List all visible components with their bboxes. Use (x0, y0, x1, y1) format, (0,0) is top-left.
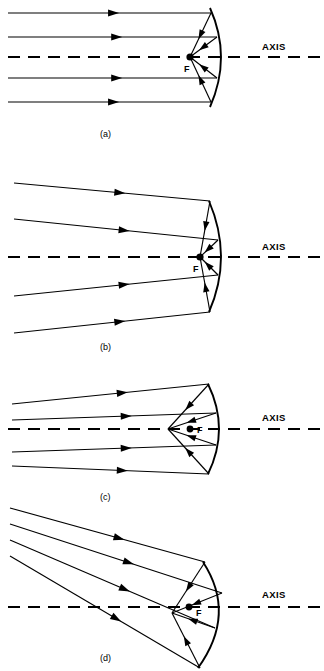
incoming-ray-arrow-1 (108, 9, 119, 16)
reflected-ray-arrow-3 (199, 64, 208, 72)
reflected-ray-arrow-2 (192, 599, 202, 605)
panel-d: FAXIS(d) (8, 508, 324, 668)
incoming-ray-arrow-4 (110, 613, 121, 622)
incoming-ray-4 (12, 466, 209, 474)
incoming-ray-2 (12, 413, 216, 420)
focal-point-label: F (184, 64, 190, 74)
incoming-ray-arrow-3 (121, 445, 132, 452)
incoming-ray-1 (12, 384, 209, 404)
reflected-ray-arrow-1 (198, 29, 205, 39)
incoming-ray-4 (14, 312, 210, 333)
panel-c: FAXIS(c) (8, 384, 324, 502)
incoming-ray-arrow-4 (117, 467, 128, 474)
panel-caption-b: (b) (100, 342, 111, 352)
axis-label: AXIS (262, 41, 286, 52)
focal-point-dot (196, 253, 203, 260)
focal-point-dot (186, 53, 193, 60)
parabolic-reflector-figure: FAXIS(a)FAXIS(b)FAXIS(c)FAXIS(d) (0, 0, 324, 671)
incoming-ray-arrow-4 (114, 319, 125, 326)
incoming-ray-arrow-2 (111, 33, 122, 40)
focal-point-dot (187, 426, 194, 433)
reflected-ray-arrow-3 (188, 619, 198, 625)
reflected-ray-arrow-2 (187, 417, 197, 423)
incoming-ray-arrow-2 (118, 226, 129, 233)
incoming-ray-arrow-1 (113, 533, 125, 540)
incoming-ray-4 (10, 556, 200, 668)
focal-point-label: F (196, 608, 202, 618)
focal-point-label: F (193, 264, 199, 274)
incoming-ray-arrow-2 (121, 413, 132, 420)
reflected-ray-arrow-4 (184, 636, 191, 646)
focal-point-label: F (197, 425, 203, 435)
panel-caption-a: (a) (100, 129, 111, 139)
axis-label: AXIS (262, 241, 286, 252)
reflected-ray-arrow-3 (187, 435, 197, 441)
incoming-ray-arrow-4 (108, 98, 119, 105)
panel-caption-d: (d) (100, 653, 111, 663)
reflected-ray-arrow-2 (199, 42, 209, 50)
panel-caption-c: (c) (100, 492, 111, 502)
focal-point-dot (186, 604, 193, 611)
axis-label: AXIS (262, 589, 286, 600)
incoming-ray-3 (14, 275, 218, 296)
axis-label: AXIS (262, 412, 286, 423)
incoming-ray-arrow-3 (118, 282, 129, 289)
incoming-ray-arrow-3 (118, 584, 130, 592)
incoming-ray-arrow-2 (122, 558, 134, 565)
incoming-ray-1 (14, 183, 210, 201)
incoming-ray-1 (10, 508, 205, 562)
panel-a: FAXIS(a) (8, 8, 324, 139)
incoming-ray-arrow-1 (116, 390, 127, 397)
reflected-ray-arrow-4 (203, 283, 209, 293)
incoming-ray-arrow-1 (114, 189, 125, 196)
incoming-ray-2 (14, 219, 218, 240)
incoming-ray-arrow-3 (111, 74, 122, 81)
panel-b: FAXIS(b) (8, 183, 324, 352)
reflected-ray-arrow-1 (203, 221, 209, 231)
reflected-ray-arrow-4 (198, 75, 205, 85)
